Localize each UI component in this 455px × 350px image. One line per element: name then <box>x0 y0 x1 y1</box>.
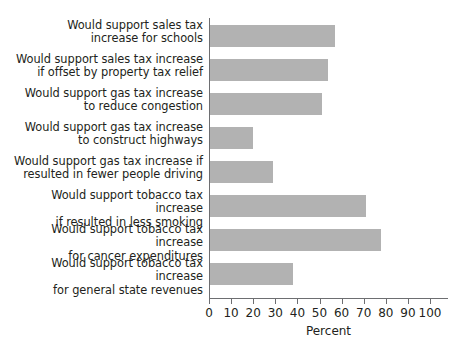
bar-0 <box>209 25 335 47</box>
x-axis-tick-90 <box>408 298 409 304</box>
x-axis-tick-label-40: 40 <box>290 306 305 320</box>
bar-2 <box>209 93 322 115</box>
bar-5 <box>209 195 366 217</box>
category-label-0: Would support sales tax increase for sch… <box>0 19 203 46</box>
category-label-2: Would support gas tax increase to reduce… <box>0 87 203 114</box>
x-axis-tick-50 <box>320 298 321 304</box>
x-axis-tick-20 <box>253 298 254 304</box>
x-axis-tick-60 <box>342 298 343 304</box>
x-axis-tick-10 <box>231 298 232 304</box>
category-label-7: Would support tobacco tax increase for g… <box>0 257 203 297</box>
bar-6 <box>209 229 381 251</box>
x-axis-tick-label-20: 20 <box>246 306 261 320</box>
x-axis-tick-label-30: 30 <box>268 306 283 320</box>
x-axis-tick-100 <box>430 298 431 304</box>
x-axis-tick-label-70: 70 <box>356 306 371 320</box>
y-axis-line <box>209 18 210 299</box>
category-label-3: Would support gas tax increase to constr… <box>0 121 203 148</box>
x-axis-tick-label-50: 50 <box>312 306 327 320</box>
x-axis-tick-30 <box>275 298 276 304</box>
plot-area <box>209 18 430 296</box>
x-axis-tick-label-90: 90 <box>400 306 415 320</box>
bar-7 <box>209 263 293 285</box>
bar-1 <box>209 59 328 81</box>
category-label-1: Would support sales tax increase if offs… <box>0 53 203 80</box>
category-label-4: Would support gas tax increase if result… <box>0 155 203 182</box>
x-axis-tick-label-0: 0 <box>205 306 213 320</box>
x-axis-tick-label-80: 80 <box>378 306 393 320</box>
bar-3 <box>209 127 253 149</box>
x-axis-tick-0 <box>209 298 210 304</box>
x-axis-tick-40 <box>297 298 298 304</box>
x-axis-tick-70 <box>364 298 365 304</box>
x-axis-tick-label-60: 60 <box>334 306 349 320</box>
x-axis-title: Percent <box>209 324 448 338</box>
x-axis-tick-label-10: 10 <box>223 306 238 320</box>
x-axis-line <box>209 298 448 299</box>
bar-chart: Would support sales tax increase for sch… <box>0 0 455 350</box>
bar-4 <box>209 161 273 183</box>
x-axis-tick-label-100: 100 <box>419 306 442 320</box>
x-axis-tick-80 <box>386 298 387 304</box>
